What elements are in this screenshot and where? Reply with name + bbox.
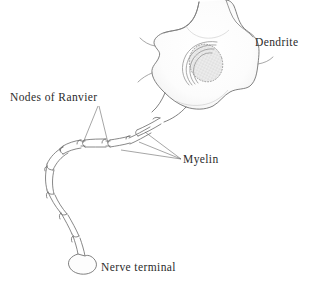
myelin-segment xyxy=(82,139,106,147)
leader-lines-nodes-of-ranvier xyxy=(83,106,108,143)
dendrite-branch-left-lower xyxy=(138,73,152,82)
nerve-terminal-bulb xyxy=(68,254,96,274)
label-myelin: Myelin xyxy=(183,153,219,165)
leader-line-node-1 xyxy=(83,106,98,143)
leader-line-myelin-1 xyxy=(145,132,181,159)
label-nodes-of-ranvier: Nodes of Ranvier xyxy=(10,91,98,103)
leader-line-node-2 xyxy=(99,106,108,143)
myelin-segment xyxy=(108,136,130,147)
label-nerve-terminal: Nerve terminal xyxy=(101,261,176,273)
myelin-segment xyxy=(59,213,79,237)
dendrite-branch-right xyxy=(258,57,273,64)
label-dendrite: Dendrite xyxy=(255,36,298,48)
dendrite-branch-left xyxy=(140,38,155,46)
axon xyxy=(45,117,161,256)
myelin-segment xyxy=(46,192,67,215)
leader-line-myelin-3 xyxy=(121,150,181,159)
myelin-segment xyxy=(60,140,81,154)
myelin-segment xyxy=(71,236,85,256)
leader-line-myelin-2 xyxy=(139,142,181,159)
myelin-segment xyxy=(47,147,68,170)
